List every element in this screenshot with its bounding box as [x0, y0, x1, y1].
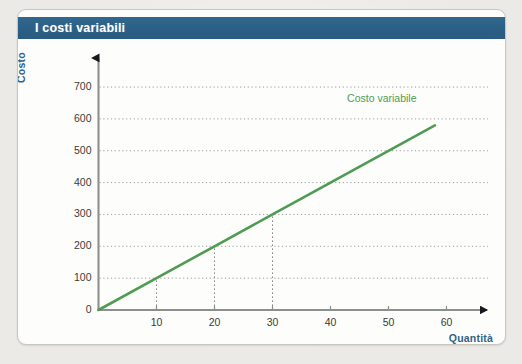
page-root: I costi variabili Costo Quantità 0100200… [0, 0, 522, 364]
x-tick-label: 50 [374, 316, 404, 328]
y-tick-label: 0 [86, 303, 92, 315]
y-tick-label: 200 [74, 239, 92, 251]
y-tick-label: 400 [74, 176, 92, 188]
grid-lines [100, 87, 489, 278]
y-tick-label: 300 [74, 207, 92, 219]
x-tick-label: 60 [432, 316, 462, 328]
y-axis-title: Costo [17, 52, 27, 83]
x-tick-label: 20 [200, 316, 230, 328]
series-label: Costo variabile [347, 92, 416, 104]
drop-lines [157, 214, 273, 310]
page-title: I costi variabili [18, 21, 125, 35]
chart-title-bar: I costi variabili [18, 17, 506, 39]
x-tick-label: 10 [142, 316, 172, 328]
x-tick-label: 40 [316, 316, 346, 328]
y-tick-label: 600 [74, 112, 92, 124]
chart-card: I costi variabili Costo Quantità 0100200… [17, 9, 506, 345]
x-axis-title: Quantità [449, 332, 493, 344]
data-series [99, 125, 435, 310]
plot-area: Costo Quantità 0100200300400500600700 10… [18, 39, 506, 345]
y-tick-label: 500 [74, 144, 92, 156]
y-tick-label: 100 [74, 271, 92, 283]
y-tick-label: 700 [74, 80, 92, 92]
series-line-0 [99, 125, 435, 310]
x-tick-label: 30 [258, 316, 288, 328]
